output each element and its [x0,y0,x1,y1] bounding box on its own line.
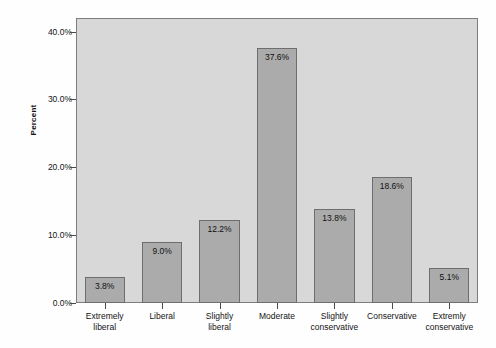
x-axis-tick-mark [449,303,450,309]
y-axis-tick-label: 40.0% [16,27,72,37]
bar-value-label: 13.8% [315,213,353,223]
bar-value-label: 9.0% [143,246,181,256]
bar: 9.0% [142,242,182,303]
plot-area: 3.8%9.0%12.2%37.6%13.8%18.6%5.1% [76,18,478,303]
x-axis-tick-label: Conservative [367,311,417,322]
x-axis-tick-mark [334,303,335,309]
x-axis-tick-label: Liberal [149,311,175,322]
bar-value-label: 3.8% [86,281,124,291]
x-axis-tick-label: Extremely liberal [86,311,124,333]
x-axis-tick-mark [162,303,163,309]
x-axis-tick-label: Extremly conservative [425,311,473,333]
bar-value-label: 12.2% [200,224,238,234]
y-axis-tick-label: 10.0% [16,230,72,240]
x-axis-tick-mark [277,303,278,309]
y-axis-title: Percent [24,80,44,160]
y-axis-tick-label: 0.0% [16,298,72,308]
x-axis-tick-mark [392,303,393,309]
bar: 12.2% [199,220,239,303]
bar: 37.6% [257,48,297,303]
bar: 13.8% [314,209,354,303]
bar-value-label: 37.6% [258,52,296,62]
y-axis-tick-label: 20.0% [16,162,72,172]
bar-value-label: 18.6% [373,181,411,191]
x-axis-tick-mark [220,303,221,309]
bar: 18.6% [372,177,412,303]
x-axis-tick-label: Slightly conservative [311,311,359,333]
x-axis-tick-mark [105,303,106,309]
bar-value-label: 5.1% [430,272,468,282]
x-axis-tick-label: Slightly liberal [206,311,233,333]
bar: 3.8% [85,277,125,303]
y-axis-tick-label: 30.0% [16,94,72,104]
x-axis-tick-label: Moderate [259,311,295,322]
bar: 5.1% [429,268,469,303]
y-axis-tick-mark [70,303,76,304]
bar-chart: Percent 0.0%10.0%20.0%30.0%40.0% 3.8%9.0… [0,0,496,348]
